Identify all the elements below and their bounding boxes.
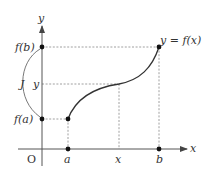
y-axis-label: y [37,12,45,25]
x-axis-label: x [190,142,197,155]
point-a-on-x-axis [66,147,71,152]
point-fb-on-y-axis [40,45,45,50]
tick-label-a: a [64,153,71,166]
tick-label-fb: f(b) [14,41,35,54]
function-graph-diagram: y x O a x b f(b) y f(a) J y = f(x) [0,0,216,173]
guide-lines [42,47,159,149]
tick-label-y: y [32,78,40,91]
point-fa-on-y-axis [40,117,45,122]
tick-label-b: b [156,153,163,166]
point-b-on-x-axis [157,147,162,152]
tick-label-fa: f(a) [13,113,33,126]
interval-label-j: J [18,78,25,91]
origin-label: O [27,153,36,166]
tick-label-x: x [115,153,122,166]
points [40,45,162,152]
point-a-fa [66,117,71,122]
curve-label: y = f(x) [159,34,201,47]
function-curve [68,47,159,119]
